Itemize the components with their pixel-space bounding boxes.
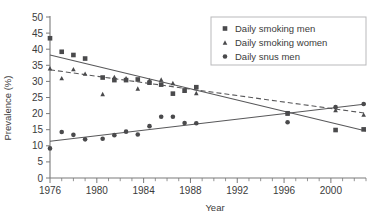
data-point-square — [135, 77, 140, 82]
data-point-triangle — [48, 66, 53, 70]
data-point-circle — [135, 132, 140, 137]
data-point-square — [333, 128, 338, 133]
y-tick-label: 0 — [37, 173, 43, 184]
y-tick-label: 40 — [32, 44, 44, 55]
data-point-square — [48, 36, 53, 41]
data-point-triangle — [194, 91, 199, 95]
chart-legend: Daily smoking menDaily smoking womenDail… — [211, 17, 366, 65]
trendline-triangle — [50, 70, 366, 113]
y-axis-label: Prevalence (%) — [2, 76, 13, 141]
x-tick-label: 1996 — [273, 185, 296, 196]
data-point-square — [159, 82, 164, 87]
data-point-circle — [71, 133, 76, 138]
data-point-circle — [100, 136, 105, 141]
prevalence-scatter-chart: 05101520253035404550 1976198019841988199… — [0, 0, 371, 216]
trendline-square — [50, 55, 366, 131]
data-point-circle — [285, 120, 290, 125]
x-axis-ticks: 1976198019841988199219962000 — [39, 178, 366, 196]
x-tick-label: 1980 — [86, 185, 109, 196]
data-point-circle — [124, 129, 129, 134]
data-point-triangle — [59, 76, 64, 80]
data-point-triangle — [135, 86, 140, 90]
data-point-circle — [147, 124, 152, 129]
data-point-circle — [171, 115, 176, 120]
x-tick-label: 1992 — [226, 185, 249, 196]
data-point-circle — [112, 133, 117, 138]
data-point-circle — [59, 130, 64, 135]
x-tick-label: 1976 — [39, 185, 62, 196]
data-point-circle — [194, 121, 199, 126]
data-point-circle — [159, 115, 164, 120]
y-tick-label: 45 — [32, 28, 44, 39]
legend-label: Daily smoking men — [235, 23, 315, 34]
data-point-square — [171, 91, 176, 96]
data-point-circle — [333, 105, 338, 110]
x-axis-label: Year — [205, 202, 224, 213]
trendline-circle — [50, 104, 366, 141]
data-point-circle — [83, 137, 88, 142]
chart-container: 05101520253035404550 1976198019841988199… — [0, 0, 371, 216]
legend-label: Daily smoking women — [235, 37, 327, 48]
y-tick-label: 20 — [32, 108, 44, 119]
y-tick-label: 30 — [32, 76, 44, 87]
data-point-triangle — [100, 92, 105, 96]
data-point-triangle — [159, 77, 164, 81]
y-tick-label: 35 — [32, 60, 44, 71]
data-point-triangle — [171, 81, 176, 85]
y-axis-ticks: 05101520253035404550 — [32, 12, 50, 184]
y-tick-label: 10 — [32, 140, 44, 151]
legend-marker-square — [223, 26, 228, 31]
data-point-square — [100, 75, 105, 80]
y-tick-label: 50 — [32, 12, 44, 23]
data-point-square — [83, 56, 88, 61]
data-point-triangle — [83, 71, 88, 75]
data-point-square — [194, 85, 199, 90]
data-point-square — [59, 49, 64, 54]
trendlines — [50, 55, 366, 141]
x-tick-label: 2000 — [320, 185, 343, 196]
data-point-circle — [361, 102, 366, 107]
x-tick-label: 1988 — [179, 185, 202, 196]
x-tick-label: 1984 — [133, 185, 156, 196]
data-point-circle — [182, 121, 187, 126]
y-tick-label: 5 — [37, 156, 43, 167]
data-point-circle — [48, 146, 53, 151]
legend-label: Daily snus men — [235, 51, 300, 62]
data-point-square — [361, 127, 366, 132]
y-tick-label: 25 — [32, 92, 44, 103]
y-tick-label: 15 — [32, 124, 44, 135]
data-point-triangle — [71, 67, 76, 71]
legend-marker-circle — [223, 54, 228, 59]
data-point-triangle — [112, 75, 117, 79]
data-point-square — [71, 53, 76, 58]
